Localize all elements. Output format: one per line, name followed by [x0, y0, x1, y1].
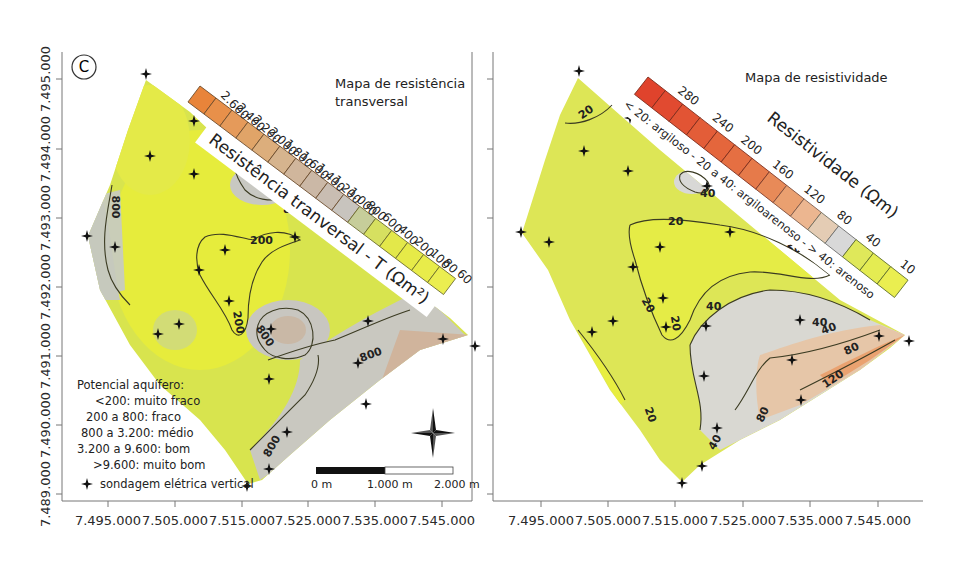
contour-label: 20	[668, 215, 684, 228]
survey-point-icon	[360, 398, 372, 410]
x-tick: 7.505.000	[575, 513, 641, 528]
x-tick: 7.525.000	[275, 513, 341, 528]
y-tick: 7.492.000	[38, 254, 53, 320]
y-tick: 7.493.000	[38, 185, 53, 251]
aquifer-legend-line: 200 a 800: fraco	[86, 410, 181, 424]
figure-canvas: C 7.495.000 7.494.000 7.493.000 7.492.00…	[0, 0, 961, 564]
contour-label: 40	[706, 300, 722, 313]
right-x-ticks: 7.495.000 7.505.000 7.515.000 7.525.000 …	[508, 501, 911, 528]
survey-point-legend-icon	[81, 478, 93, 490]
survey-point-icon	[676, 477, 688, 489]
right-y-ticks	[487, 79, 493, 494]
y-tick: 7.491.000	[38, 323, 53, 389]
aquifer-legend-line: 3.200 a 9.600: bom	[77, 442, 190, 456]
survey-point-icon	[140, 68, 152, 80]
y-tick: 7.495.000	[38, 46, 53, 112]
panel-label: C	[79, 58, 89, 76]
aquifer-legend-line: <200: muito fraco	[95, 394, 200, 408]
aquifer-legend-title: Potencial aquífero:	[77, 378, 184, 392]
y-tick: 7.490.000	[38, 392, 53, 458]
x-tick: 7.515.000	[209, 513, 275, 528]
contour-label: 20	[668, 315, 684, 333]
aquifer-legend-line: >9.600: muito bom	[93, 458, 206, 472]
x-tick: 7.495.000	[75, 513, 141, 528]
contour-label: 800	[109, 196, 122, 219]
x-tick: 7.495.000	[508, 513, 574, 528]
scale-label: 1.000 m	[367, 478, 413, 491]
x-tick: 7.545.000	[845, 513, 911, 528]
right-map-panel: 7.495.000 7.505.000 7.515.000 7.525.000 …	[487, 52, 923, 528]
contour-label: 200	[250, 234, 273, 247]
left-map-title-line1: Mapa de resistência	[335, 76, 465, 91]
point-legend-label: sondagem elétrica vertical	[100, 477, 254, 491]
scale-label: 2.000 m	[434, 478, 480, 491]
compass-rose-icon	[411, 408, 455, 458]
x-tick: 7.545.000	[409, 513, 475, 528]
survey-point-icon	[903, 335, 915, 347]
survey-point-icon	[469, 340, 481, 352]
x-tick: 7.535.000	[342, 513, 408, 528]
scale-label: 0 m	[311, 478, 332, 491]
left-map-title-line2: transversal	[335, 94, 408, 109]
left-y-ticks: 7.495.000 7.494.000 7.493.000 7.492.000 …	[38, 46, 62, 527]
aquifer-legend-line: 800 a 3.200: médio	[81, 426, 194, 440]
survey-point-icon	[573, 65, 585, 77]
left-x-ticks: 7.495.000 7.505.000 7.515.000 7.525.000 …	[75, 501, 475, 528]
x-tick: 7.505.000	[142, 513, 208, 528]
right-map-title: Mapa de resistividade	[745, 70, 888, 85]
left-map-panel: C 7.495.000 7.494.000 7.493.000 7.492.00…	[38, 46, 481, 528]
x-tick: 7.535.000	[777, 513, 843, 528]
x-tick: 7.525.000	[710, 513, 776, 528]
scale-bar: 0 m 1.000 m 2.000 m	[311, 467, 480, 491]
x-tick: 7.515.000	[642, 513, 708, 528]
y-tick: 7.489.000	[38, 461, 53, 527]
y-tick: 7.494.000	[38, 116, 53, 182]
